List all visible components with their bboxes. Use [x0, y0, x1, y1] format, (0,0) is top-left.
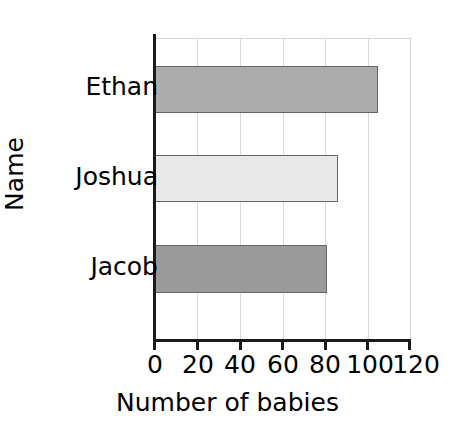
bar-jacob	[155, 245, 327, 293]
xtick-mark-120	[408, 342, 411, 350]
xtick-label-0: 0	[147, 350, 163, 380]
xtick-label-60: 60	[267, 350, 299, 380]
chart-title: Number of babies with a certain name	[0, 0, 455, 3]
xtick-mark-100	[366, 342, 369, 350]
plot-area	[155, 38, 411, 340]
xtick-mark-0	[153, 342, 156, 350]
plot-right-border	[410, 38, 411, 340]
xtick-label-120: 120	[392, 350, 440, 380]
y-axis-title: Name	[0, 99, 32, 249]
xtick-label-40: 40	[224, 350, 256, 380]
bar-joshua	[155, 155, 338, 202]
ytick-label-jacob: Jacob	[90, 252, 158, 282]
xtick-label-20: 20	[182, 350, 214, 380]
bar-ethan	[155, 66, 378, 113]
xtick-label-100: 100	[346, 350, 394, 380]
ytick-label-ethan: Ethan	[85, 72, 158, 102]
xtick-mark-20	[196, 342, 199, 350]
xtick-label-80: 80	[309, 350, 341, 380]
bar-chart-figure: Number of babies with a certain name 0 2…	[0, 0, 455, 438]
chart-title-clipped: Number of babies with a certain name	[0, 0, 455, 16]
x-axis-title: Number of babies	[0, 388, 455, 417]
xtick-mark-40	[239, 342, 242, 350]
y-axis-title-wrapper: Name	[0, 157, 90, 191]
xtick-mark-60	[281, 342, 284, 350]
xtick-mark-80	[324, 342, 327, 350]
